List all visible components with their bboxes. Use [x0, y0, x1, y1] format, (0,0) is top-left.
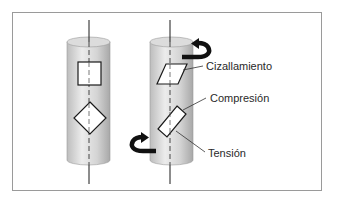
- left-cylinder: [67, 20, 110, 184]
- diagram-canvas: [0, 0, 337, 200]
- square-element: [78, 62, 101, 85]
- label-compression: Compresión: [210, 92, 269, 104]
- label-shear: Cizallamiento: [206, 60, 272, 72]
- label-tension: Tensión: [208, 147, 246, 159]
